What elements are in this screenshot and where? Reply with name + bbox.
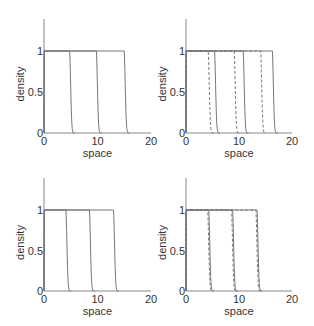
x-axis-label: space (224, 147, 253, 159)
x-tick-label: 20 (286, 293, 298, 305)
y-tick-label: 0.5 (170, 86, 185, 98)
panel-top-left: 0102000.51spacedensity (0, 0, 157, 163)
solid-density-curve (44, 210, 95, 291)
y-tick-label: 1 (37, 204, 43, 216)
y-tick-label: 1 (179, 204, 185, 216)
plot-bottom-left: 0102000.51spacedensity (0, 163, 157, 326)
x-tick-label: 20 (286, 135, 298, 147)
x-tick-label: 20 (145, 135, 157, 147)
y-tick-label: 0 (179, 127, 185, 139)
solid-density-curve (44, 210, 119, 291)
solid-density-curve (44, 51, 102, 133)
dashed-density-curve (186, 210, 261, 291)
y-tick-label: 1 (37, 45, 43, 57)
y-axis-label: density (157, 66, 168, 101)
y-tick-label: 0 (179, 285, 185, 297)
dashed-density-curve (186, 51, 214, 133)
solid-density-curve (186, 210, 262, 291)
x-tick-label: 10 (233, 293, 245, 305)
dashed-density-curve (186, 51, 266, 133)
x-tick-label: 20 (145, 293, 157, 305)
solid-density-curve (186, 51, 278, 133)
x-axis-label: space (83, 305, 112, 317)
plot-top-left: 0102000.51spacedensity (0, 0, 157, 163)
solid-density-curve (186, 51, 249, 133)
y-tick-label: 0.5 (170, 245, 185, 257)
panel-top-right: 0102000.51spacedensity (157, 0, 314, 163)
y-axis-label: density (14, 66, 26, 101)
panel-bottom-left: 0102000.51spacedensity (0, 163, 157, 326)
x-tick-label: 10 (233, 135, 245, 147)
y-tick-label: 0 (37, 285, 43, 297)
dashed-density-curve (186, 51, 240, 133)
x-axis-label: space (83, 147, 112, 159)
x-axis-label: space (224, 305, 253, 317)
solid-density-curve (186, 51, 220, 133)
panel-bottom-right: 0102000.51spacedensity (157, 163, 314, 326)
x-tick-label: 10 (91, 293, 103, 305)
solid-density-curve (44, 51, 75, 133)
y-tick-label: 0 (37, 127, 43, 139)
y-tick-label: 1 (179, 45, 185, 57)
y-tick-label: 0.5 (28, 86, 43, 98)
y-axis-label: density (14, 225, 26, 260)
solid-density-curve (186, 210, 238, 291)
y-tick-label: 0.5 (28, 245, 43, 257)
dashed-density-curve (186, 210, 237, 291)
solid-density-curve (44, 51, 130, 133)
x-tick-label: 10 (91, 135, 103, 147)
plot-bottom-right: 0102000.51spacedensity (157, 163, 314, 326)
solid-density-curve (44, 210, 71, 291)
plot-top-right: 0102000.51spacedensity (157, 0, 314, 163)
y-axis-label: density (157, 225, 168, 260)
